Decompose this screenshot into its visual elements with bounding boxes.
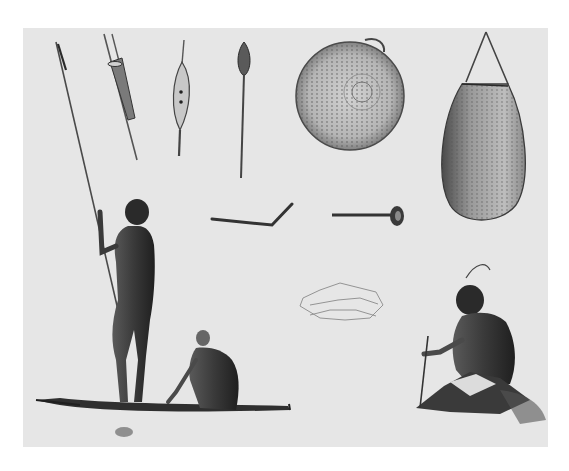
standing-man-with-spear: [100, 199, 155, 402]
sketched-fish-net: [300, 283, 383, 320]
multi-prong-spear: [104, 34, 137, 160]
knobbed-club: [332, 206, 404, 226]
seated-man-in-canoe: [168, 330, 239, 410]
bent-throwing-stick: [212, 204, 292, 225]
seated-man-fire-drilling: [416, 265, 546, 424]
paddle-club: [238, 42, 250, 178]
hanging-woven-bag: [442, 32, 525, 220]
bark-canoe: [36, 398, 290, 437]
coiled-round-basket: [296, 39, 404, 150]
leaf-shaped-spear-thrower: [173, 40, 189, 156]
long-spear: [56, 42, 118, 310]
illustration: [0, 0, 569, 471]
